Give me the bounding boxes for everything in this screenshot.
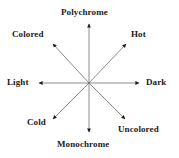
- axis-label-hot: Hot: [131, 29, 146, 39]
- axis-label-light: Light: [7, 77, 29, 87]
- axis-label-monochrome: Monochrome: [57, 139, 109, 149]
- axis-arrow-lower-left: [53, 83, 89, 119]
- axis-label-cold: Cold: [27, 117, 46, 127]
- axis-label-uncolored: Uncolored: [118, 124, 159, 134]
- axis-label-dark: Dark: [146, 77, 166, 87]
- axis-arrow-upper-right: [89, 44, 126, 83]
- axis-label-colored: Colored: [12, 29, 44, 39]
- axis-arrow-lower-right: [89, 83, 125, 119]
- axis-arrow-upper-left: [53, 44, 89, 83]
- axis-label-polychrome: Polychrome: [61, 7, 108, 17]
- color-attribute-axis-diagram: Polychrome Monochrome Light Dark Colored…: [0, 0, 179, 158]
